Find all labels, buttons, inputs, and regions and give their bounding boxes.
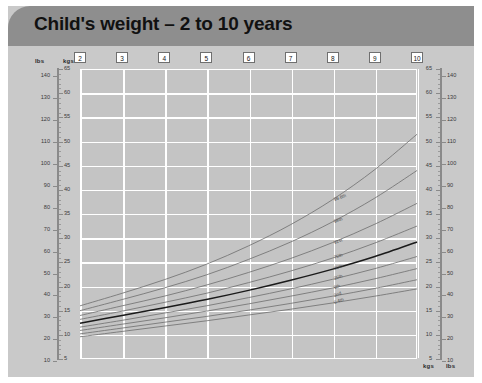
age-marker-4[interactable]: 4 <box>158 52 170 63</box>
tick-kg-left <box>59 214 63 215</box>
tick-kg-right <box>436 335 440 336</box>
tick-minor-kg-right <box>438 74 440 75</box>
tick-minor-kg-right <box>438 79 440 80</box>
tick-label-lbs-left: 30 <box>44 314 50 320</box>
tick-minor-kg-left <box>59 301 61 302</box>
tick-lbs-left <box>53 186 57 187</box>
tick-minor-kg-left <box>59 243 61 244</box>
tick-minor-kg-right <box>438 88 440 89</box>
tick-label-lbs-left: 90 <box>44 183 50 189</box>
tick-label-lbs-left: 20 <box>44 336 50 342</box>
tick-minor-kg-left <box>59 185 61 186</box>
tick-label-kg-right: 55 <box>426 114 432 120</box>
age-marker-2[interactable]: 2 <box>74 52 86 63</box>
percentile-curves <box>8 46 474 377</box>
tick-minor-kg-left <box>59 320 61 321</box>
tick-minor-kg-left <box>59 180 61 181</box>
percentile-curve-99.6th <box>80 134 417 306</box>
percentile-curve-25th <box>80 257 417 328</box>
tick-minor-kg-left <box>59 267 61 268</box>
tick-minor-kg-right <box>438 151 440 152</box>
chart-area: 5510101515202025253030353540404545505055… <box>8 46 474 377</box>
tick-lbs-right <box>442 361 446 362</box>
tick-label-lbs-right: 120 <box>447 117 456 123</box>
tick-label-lbs-right: 140 <box>447 73 456 79</box>
age-marker-5[interactable]: 5 <box>200 52 212 63</box>
tick-minor-kg-left <box>59 340 61 341</box>
tick-label-kg-left: 5 <box>64 356 67 362</box>
tick-kg-left <box>59 287 63 288</box>
tick-minor-kg-right <box>438 108 440 109</box>
tick-minor-kg-right <box>438 175 440 176</box>
tick-kg-right <box>436 166 440 167</box>
tick-kg-right <box>436 359 440 360</box>
tick-minor-kg-right <box>438 127 440 128</box>
tick-label-kg-right: 40 <box>426 187 432 193</box>
tick-minor-kg-right <box>438 161 440 162</box>
tick-label-kg-left: 40 <box>64 187 70 193</box>
age-marker-7[interactable]: 7 <box>285 52 297 63</box>
tick-label-kg-left: 45 <box>64 163 70 169</box>
tick-lbs-left <box>53 208 57 209</box>
tick-minor-kg-right <box>438 306 440 307</box>
age-marker-6[interactable]: 6 <box>243 52 255 63</box>
tick-minor-kg-left <box>59 349 61 350</box>
tick-lbs-left <box>53 230 57 231</box>
tick-minor-kg-right <box>438 258 440 259</box>
tick-minor-kg-left <box>59 79 61 80</box>
tick-lbs-right <box>442 252 446 253</box>
tick-lbs-right <box>442 339 446 340</box>
age-marker-8[interactable]: 8 <box>327 52 339 63</box>
tick-kg-left <box>59 117 63 118</box>
tick-kg-left <box>59 69 63 70</box>
tick-kg-left <box>59 335 63 336</box>
tick-minor-kg-left <box>59 200 61 201</box>
tick-label-lbs-left: 80 <box>44 205 50 211</box>
tick-label-kg-left: 15 <box>64 308 70 314</box>
tick-lbs-right <box>442 98 446 99</box>
age-marker-9[interactable]: 9 <box>369 52 381 63</box>
tick-lbs-left <box>53 361 57 362</box>
tick-kg-right <box>436 69 440 70</box>
tick-minor-kg-left <box>59 253 61 254</box>
tick-minor-kg-left <box>59 233 61 234</box>
age-marker-3[interactable]: 3 <box>116 52 128 63</box>
tick-minor-kg-right <box>438 224 440 225</box>
tick-kg-left <box>59 238 63 239</box>
age-marker-10[interactable]: 10 <box>411 52 423 63</box>
tick-minor-kg-left <box>59 175 61 176</box>
tick-label-kg-right: 5 <box>429 356 432 362</box>
tick-minor-kg-left <box>59 291 61 292</box>
tick-minor-kg-right <box>438 146 440 147</box>
tick-minor-kg-left <box>59 354 61 355</box>
tick-label-lbs-left: 120 <box>41 117 50 123</box>
tick-label-kg-right: 20 <box>426 284 432 290</box>
tick-label-kg-left: 10 <box>64 332 70 338</box>
tick-minor-kg-right <box>438 296 440 297</box>
tick-minor-kg-right <box>438 291 440 292</box>
tick-kg-right <box>436 311 440 312</box>
tick-kg-right <box>436 214 440 215</box>
tick-minor-kg-left <box>59 229 61 230</box>
tick-label-kg-left: 35 <box>64 211 70 217</box>
tick-label-kg-left: 55 <box>64 114 70 120</box>
right-axis-spine <box>440 68 442 360</box>
percentile-curve-0.4th <box>80 289 417 337</box>
tick-label-lbs-right: 110 <box>447 139 456 145</box>
tick-minor-kg-right <box>438 185 440 186</box>
tick-minor-kg-right <box>438 354 440 355</box>
tick-minor-kg-right <box>438 229 440 230</box>
tick-lbs-right <box>442 142 446 143</box>
tick-label-lbs-left: 100 <box>41 161 50 167</box>
chart-header: Child's weight – 2 to 10 years <box>8 6 474 46</box>
tick-minor-kg-right <box>438 277 440 278</box>
tick-minor-kg-right <box>438 243 440 244</box>
tick-kg-left <box>59 142 63 143</box>
tick-minor-kg-left <box>59 98 61 99</box>
tick-label-kg-left: 50 <box>64 139 70 145</box>
tick-minor-kg-left <box>59 204 61 205</box>
tick-minor-kg-right <box>438 248 440 249</box>
tick-kg-right <box>436 117 440 118</box>
tick-kg-left <box>59 359 63 360</box>
tick-minor-kg-left <box>59 161 61 162</box>
